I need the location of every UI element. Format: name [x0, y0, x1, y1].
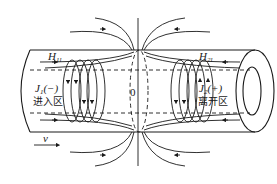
label-center: 0	[130, 86, 136, 98]
label-exit-zone: 离开区	[198, 95, 228, 107]
magnetic-field-diagram: H1l H2l J1(−) 进入区 J2(+) 离开区 0 v	[0, 0, 277, 184]
label-h11: H1l	[47, 50, 61, 64]
label-h21: H2l	[198, 50, 212, 64]
left-coil	[63, 60, 105, 122]
label-j2: J2(+)	[199, 82, 222, 96]
label-velocity: v	[43, 132, 48, 144]
label-entry-zone: 进入区	[33, 96, 63, 107]
label-j1: J1(−)	[35, 82, 58, 96]
